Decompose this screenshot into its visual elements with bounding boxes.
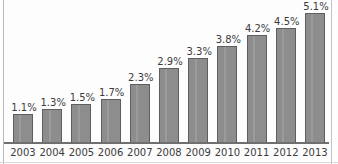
bar-group: 3.8% <box>217 0 237 142</box>
bar-value-label: 1.5% <box>70 92 95 103</box>
bar-group: 3.3% <box>188 0 208 142</box>
x-axis-tick-label: 2013 <box>300 145 329 160</box>
bar-value-label: 2.9% <box>157 56 182 67</box>
bar: 4.5% <box>276 28 296 142</box>
bar-group: 1.7% <box>101 0 121 142</box>
bar-value-label: 3.8% <box>216 34 241 45</box>
bar: 3.8% <box>217 46 237 142</box>
bar: 1.5% <box>71 104 91 142</box>
bar-value-label: 4.5% <box>274 16 299 27</box>
bar: 1.3% <box>42 109 62 142</box>
x-axis-tick-label: 2006 <box>96 145 125 160</box>
bar-group: 4.2% <box>247 0 267 142</box>
bar-value-label: 2.3% <box>128 72 153 83</box>
bar-value-label: 3.3% <box>187 46 212 57</box>
bar: 1.7% <box>101 99 121 142</box>
bar-value-label: 4.2% <box>245 23 270 34</box>
x-axis-tick-labels: 2003200420052006200720082009201020112012… <box>0 145 338 162</box>
x-axis-tick-label: 2012 <box>271 145 300 160</box>
bar-value-label: 1.1% <box>11 102 36 113</box>
bar-group: 1.1% <box>13 0 33 142</box>
x-axis-tick-label: 2010 <box>213 145 242 160</box>
plot-area: 1.1%1.3%1.5%1.7%2.3%2.9%3.3%3.8%4.2%4.5%… <box>0 0 338 142</box>
x-axis-tick-label: 2007 <box>125 145 154 160</box>
bar: 2.9% <box>159 68 179 142</box>
bar: 3.3% <box>188 58 208 142</box>
chart-frame-bottom-border <box>0 162 338 163</box>
bar-value-label: 1.7% <box>99 87 124 98</box>
bar: 2.3% <box>130 84 150 142</box>
x-axis-tick-label: 2009 <box>184 145 213 160</box>
bar-group: 1.5% <box>71 0 91 142</box>
bar-chart-figure: 1.1%1.3%1.5%1.7%2.3%2.9%3.3%3.8%4.2%4.5%… <box>0 0 338 164</box>
bar: 1.1% <box>13 114 33 142</box>
x-axis-tick-label: 2005 <box>67 145 96 160</box>
x-axis-tick-label: 2003 <box>8 145 37 160</box>
bar-value-label: 5.1% <box>303 1 328 12</box>
x-axis-tick-label: 2008 <box>154 145 183 160</box>
bar-value-label: 1.3% <box>41 97 66 108</box>
bar-group: 5.1% <box>305 0 325 142</box>
bar-group: 2.9% <box>159 0 179 142</box>
bar: 5.1% <box>305 13 325 142</box>
bar-group: 1.3% <box>42 0 62 142</box>
x-axis-tick-label: 2004 <box>38 145 67 160</box>
bar: 4.2% <box>247 35 267 142</box>
x-axis-line <box>4 142 329 144</box>
x-axis-tick-label: 2011 <box>242 145 271 160</box>
bar-group: 4.5% <box>276 0 296 142</box>
bar-group: 2.3% <box>130 0 150 142</box>
